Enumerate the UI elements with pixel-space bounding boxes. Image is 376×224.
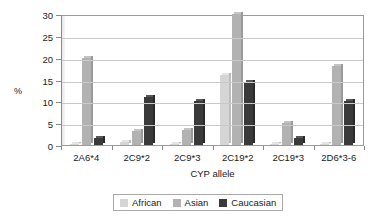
gridline (62, 82, 363, 83)
legend-item[interactable]: Asian (173, 197, 209, 208)
bar-slot (332, 66, 343, 145)
bar (120, 142, 131, 145)
bar (132, 131, 143, 145)
bar (170, 144, 181, 145)
y-axis-tick-label: 25 (42, 31, 53, 42)
bar-side (91, 56, 93, 143)
legend-label: Asian (185, 197, 209, 208)
x-axis-tick-marks (61, 146, 364, 151)
x-axis-tick-mark (213, 146, 214, 150)
legend-swatch (120, 199, 128, 207)
gridline (62, 38, 363, 39)
x-axis-tick-label: 2C9*2 (112, 152, 163, 163)
bar-slot (294, 138, 305, 145)
bar-side (203, 99, 205, 143)
plot-area (61, 15, 364, 146)
bar-front (282, 123, 291, 145)
gridline (62, 125, 363, 126)
bar (82, 58, 93, 145)
bar-slot (94, 138, 105, 145)
bar-side (141, 129, 143, 143)
legend-label: African (132, 197, 162, 208)
y-axis-tick-label: 15 (42, 75, 53, 86)
bar-side (253, 80, 255, 143)
y-axis-tick-mark (56, 146, 61, 147)
legend-item[interactable]: African (120, 197, 162, 208)
x-axis-tick-label: 2D6*3-6 (314, 152, 365, 163)
y-axis-tick-mark (56, 102, 61, 103)
y-axis-tick-labels: 051015202530 (27, 0, 53, 224)
legend: AfricanAsianCaucasian (113, 194, 283, 211)
legend-item[interactable]: Caucasian (219, 197, 276, 208)
bar (320, 144, 331, 145)
x-axis-tick-mark (112, 146, 113, 150)
bar (332, 66, 343, 145)
bar-slot (170, 144, 181, 145)
bar-front (82, 58, 91, 145)
bar (182, 130, 193, 145)
bar (194, 101, 205, 145)
bar-slot (220, 75, 231, 145)
bar-side (153, 95, 155, 143)
y-axis-tick-mark (56, 81, 61, 82)
bar-side (179, 142, 181, 143)
x-axis-tick-labels: 2A6*42C9*22C9*32C19*22C19*32D6*3-6 (61, 152, 364, 163)
bar-side (129, 140, 131, 143)
bar-front (94, 138, 103, 145)
x-axis-tick-label: 2C19*3 (263, 152, 314, 163)
legend-swatch (219, 199, 227, 207)
bar-slot (282, 123, 293, 145)
y-axis-tick-mark (56, 59, 61, 60)
bar-front (132, 131, 141, 145)
legend-swatch (173, 199, 181, 207)
y-axis-tick-label: 0 (48, 141, 53, 152)
bar-slot (244, 82, 255, 145)
x-axis-tick-label: 2C9*3 (162, 152, 213, 163)
bar-front (244, 82, 253, 145)
gridline (62, 60, 363, 61)
bar-side (79, 142, 81, 143)
y-axis-tick-mark (56, 37, 61, 38)
x-axis-title: CYP allele (61, 168, 364, 179)
bar (270, 144, 281, 145)
bar-side (303, 136, 305, 143)
bar (94, 138, 105, 145)
bar-slot (120, 142, 131, 145)
y-axis-tick-label: 5 (48, 119, 53, 130)
bar-front (170, 144, 179, 145)
bar-front (294, 138, 303, 145)
bar-front (194, 101, 203, 145)
bar (344, 101, 355, 145)
x-axis-tick-mark (61, 146, 62, 150)
bar-front (320, 144, 329, 145)
bar-side (241, 12, 243, 143)
bar-front (344, 101, 353, 145)
bar-slot (320, 144, 331, 145)
bar-front (120, 142, 129, 145)
x-axis-tick-mark (162, 146, 163, 150)
y-axis-tick-mark (56, 15, 61, 16)
bar-slot (182, 130, 193, 145)
gridline (62, 103, 363, 104)
y-axis-tick-mark (56, 124, 61, 125)
bar (282, 123, 293, 145)
x-axis-tick-mark (364, 146, 365, 150)
y-axis-tick-label: 10 (42, 97, 53, 108)
bar-front (182, 130, 191, 145)
bar-front (220, 75, 229, 145)
y-axis-tick-label: 30 (42, 10, 53, 21)
bar-slot (344, 101, 355, 145)
bar-slot (82, 58, 93, 145)
x-axis-tick-mark (314, 146, 315, 150)
bar-front (70, 144, 79, 145)
bar-side (329, 142, 331, 143)
bar-slot (70, 144, 81, 145)
bar-side (353, 99, 355, 143)
bar-front (332, 66, 341, 145)
bar-front (270, 144, 279, 145)
bar (294, 138, 305, 145)
x-axis-tick-label: 2C19*2 (213, 152, 264, 163)
bar-slot (194, 101, 205, 145)
bar (244, 82, 255, 145)
bar-chart: % 051015202530 2A6*42C9*22C9*32C19*22C19… (0, 0, 376, 224)
